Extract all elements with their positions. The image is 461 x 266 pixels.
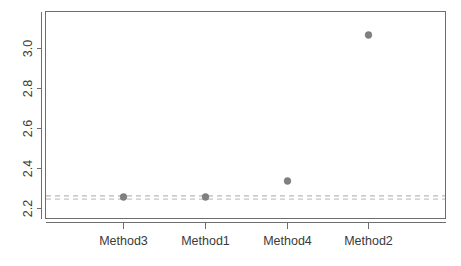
scatter-plot: 2.2 2.4 2.6 2.8 3.0 Method3 Method1 Meth… [0,0,461,266]
x-axis-ticks [124,223,369,229]
x-tick-label-method1: Method1 [181,234,230,248]
chart-canvas: 2.2 2.4 2.6 2.8 3.0 Method3 Method1 Meth… [0,0,461,266]
y-tick-label-0: 2.2 [21,200,35,217]
data-point-method1[interactable] [202,194,209,201]
data-point-method4[interactable] [284,178,291,185]
y-tick-label-3: 2.8 [21,80,35,97]
y-tick-label-1: 2.4 [21,160,35,177]
y-tick-label-2: 2.6 [21,120,35,137]
plot-panel-border [46,12,446,219]
data-points [120,32,372,201]
data-point-method2[interactable] [365,32,372,39]
y-tick-label-4: 3.0 [21,40,35,57]
x-tick-label-method3: Method3 [99,234,148,248]
reference-lines [46,196,445,199]
y-axis-tick-labels: 2.2 2.4 2.6 2.8 3.0 [21,40,35,217]
x-tick-label-method4: Method4 [263,234,312,248]
data-point-method3[interactable] [120,194,127,201]
y-axis-ticks [37,49,42,209]
x-tick-label-method2: Method2 [344,234,393,248]
x-axis-tick-labels: Method3 Method1 Method4 Method2 [99,234,393,248]
